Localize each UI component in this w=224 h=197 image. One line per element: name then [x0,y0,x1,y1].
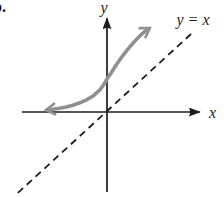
identity-line-label: y = x [175,11,210,29]
x-axis-label: x [208,104,216,121]
identity-line [18,33,192,193]
y-axis-label: y [98,0,108,17]
item-label: b. [0,0,6,15]
function-curve [46,28,150,110]
plotted-series [18,28,192,193]
function-graph: y x y = x b. [0,0,224,197]
